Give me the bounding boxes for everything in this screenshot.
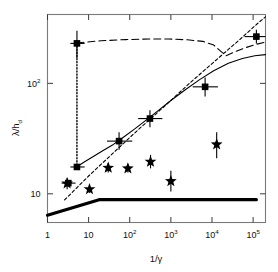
square-marker — [202, 84, 209, 91]
x-tick-label-4: 104 — [205, 228, 219, 240]
x-tick-label-2: 102 — [123, 228, 137, 240]
solid-model-curve — [77, 55, 266, 167]
square-marker — [253, 33, 260, 40]
y-tick-label-0: 10 — [30, 189, 40, 199]
x-tick-label-0: 1 — [45, 230, 50, 240]
x-tick-label-3: 103 — [164, 228, 178, 240]
square-marker — [74, 40, 81, 47]
y-tick-label-1: 102 — [27, 77, 41, 89]
square-marker — [74, 164, 81, 171]
data-point-layer — [61, 30, 265, 194]
square-marker — [116, 138, 123, 145]
short-dashed-power-law — [65, 17, 266, 200]
axis-tick-labels: 11010210310410510102 — [27, 77, 260, 240]
square-marker — [147, 115, 154, 122]
chart-svg: 11010210310410510102 — [0, 0, 278, 272]
x-tick-label-5: 105 — [246, 228, 260, 240]
thick-bound-line — [48, 200, 257, 216]
figure-container: 11010210310410510102 1/γ λ/hd — [0, 0, 278, 272]
x-tick-label-1: 10 — [84, 230, 94, 240]
